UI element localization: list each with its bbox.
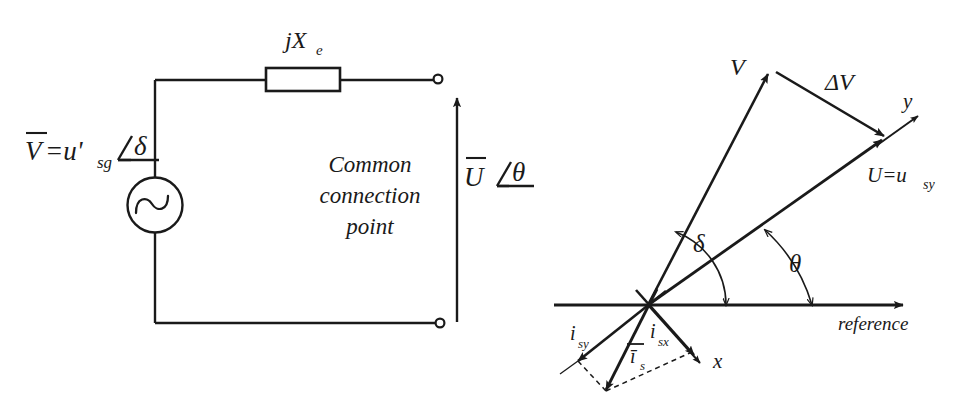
current-isy-label: i [570,322,576,344]
output-terminal-top [434,75,443,84]
ccp-line-3: point [344,214,394,239]
vector-delta-V-label: ΔV [824,69,856,95]
current-isx-label: i [650,320,656,342]
current-is-label-subscript: s [640,358,645,373]
axis-y [876,116,918,146]
current-is-label-group: ī s [627,344,645,373]
source-voltage-label-group: V =u' sg δ [25,131,159,172]
common-connection-point-label: Common connection point [320,152,421,239]
source-label-equals: =u' [45,136,84,166]
vector-V [648,74,768,305]
circuit-schematic: V =u' sg δ jX e Common connection point [25,27,534,327]
output-voltage-label-group: U θ [464,157,534,192]
output-label-U: U [464,162,485,192]
series-reactance-box [266,68,340,91]
reference-axis-label: reference [838,313,908,334]
angle-theta-label: θ [789,250,801,277]
output-terminal-bottom [436,319,445,328]
ac-voltage-source-symbol [128,178,183,233]
current-isx-label-subscript: sx [658,334,669,349]
angle-symbol-slash-delta [118,136,132,160]
current-isy-label-subscript: sy [578,336,589,351]
reactance-label-group: jX e [282,27,323,58]
axis-x-label: x [712,349,723,373]
vector-U-label: U=u [867,163,907,187]
current-isy-label-group: i sy [570,322,589,351]
source-label-V: V [25,136,45,166]
vector-U-label-subscript: sy [923,177,935,192]
source-label-subscript: sg [97,153,112,172]
reactance-label: jX [282,27,308,53]
current-is-label: ī [630,345,638,367]
vector-U [648,140,882,305]
figure-container: V =u' sg δ jX e Common connection point [0,0,959,410]
angle-symbol-slash-theta [497,162,511,186]
ccp-line-1: Common [328,152,411,177]
source-label-angle-value: δ [134,131,147,161]
angle-delta-label: δ [693,230,705,257]
vector-V-label: V [730,54,747,80]
figure-canvas: V =u' sg δ jX e Common connection point [0,0,959,410]
phasor-diagram: reference V ΔV U=u sy y x δ θ [554,54,935,391]
ccp-line-2: connection [320,183,421,208]
output-label-angle-value: θ [512,157,525,187]
vector-U-label-group: U=u sy [867,163,935,192]
dashed-construction-left [578,361,606,391]
reactance-label-subscript: e [316,42,323,58]
dashed-construction-right [606,352,692,391]
current-isy-tail [560,361,578,374]
axis-y-label: y [901,89,913,113]
